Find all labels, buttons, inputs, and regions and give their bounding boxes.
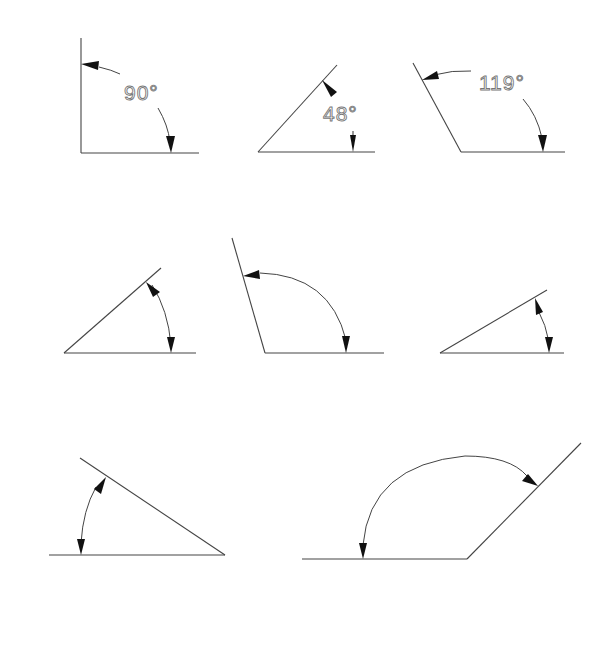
arrowhead-icon: [545, 337, 553, 353]
angle-ray-incline: [467, 443, 581, 559]
arrowhead-icon: [538, 135, 547, 152]
dimension-arc: [363, 456, 527, 545]
arrowhead-icon: [94, 477, 106, 494]
arrowhead-icon: [322, 80, 337, 97]
arrowhead-icon: [535, 298, 543, 315]
arrowhead-icon: [342, 336, 350, 353]
angle-figure-5: [232, 238, 384, 353]
angle-ray-incline: [440, 290, 547, 353]
arrowhead-icon: [167, 337, 175, 353]
angle-ray-incline: [232, 238, 265, 353]
angle-ray-incline: [80, 458, 225, 555]
arrowhead-icon: [422, 71, 439, 80]
angle-figure-2: 48°: [258, 65, 375, 152]
angle-ray-incline: [64, 268, 161, 353]
arrowhead-icon: [81, 61, 99, 70]
arrowhead-icon: [359, 543, 367, 559]
angle-figure-1: 90°: [81, 38, 199, 153]
angle-figure-7: [49, 458, 225, 555]
arrowhead-icon: [243, 270, 260, 279]
arrowhead-icon: [166, 136, 175, 153]
angle-figure-8: [302, 443, 581, 559]
arrowhead-icon: [77, 539, 85, 555]
angle-label: 119°: [479, 71, 525, 94]
dimension-arc: [81, 487, 96, 543]
angle-label: 48°: [323, 102, 358, 125]
angle-figure-3: 119°: [413, 63, 565, 152]
dimension-arc: [434, 71, 471, 75]
arrowhead-icon: [350, 135, 356, 152]
angle-figure-4: [64, 268, 196, 353]
angle-label: 90°: [124, 81, 159, 104]
arrowhead-icon: [522, 474, 538, 486]
angle-worksheet: 90° 48° 119°: [0, 0, 606, 665]
dimension-arc: [523, 99, 542, 138]
dimension-arc: [260, 273, 346, 340]
angle-figure-6: [440, 290, 564, 353]
dimension-arc: [99, 67, 120, 74]
